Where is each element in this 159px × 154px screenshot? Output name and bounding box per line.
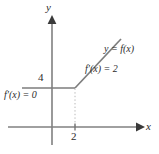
x-tick-label-2: 2 — [71, 131, 77, 142]
annotation-function-name: y = f(x) — [104, 44, 134, 54]
y-axis-label: y — [46, 2, 51, 13]
graph-canvas — [0, 0, 159, 154]
annotation-derivative-zero: f′(x) = 0 — [4, 90, 37, 100]
y-axis-arrowhead — [48, 15, 57, 24]
x-axis-label: x — [146, 121, 151, 132]
function-graph-figure: y x 4 2 f′(x) = 0 y = f(x) f′(x) = 2 — [0, 0, 159, 154]
y-tick-label-4: 4 — [38, 72, 44, 83]
annotation-derivative-two: f′(x) = 2 — [85, 64, 118, 74]
x-axis-arrowhead — [136, 123, 145, 132]
